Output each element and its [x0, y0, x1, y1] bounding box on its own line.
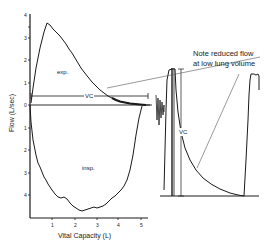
exp-label: exp. [57, 68, 68, 76]
trace-noise [156, 95, 164, 125]
left-axes [28, 14, 152, 220]
annotation-line-1: Note reduced flow [193, 49, 253, 58]
y-tick-neg4: 4 [24, 192, 27, 198]
y-tick-neg2: 2 [24, 147, 27, 153]
x-tick-1: 1 [51, 222, 54, 228]
y-tick-4: 4 [24, 12, 27, 18]
y-axis-label: Flow (L/sec) [8, 94, 15, 132]
flow-volume-diagram [0, 0, 277, 245]
x-tick-3: 3 [96, 222, 99, 228]
right-panel [160, 68, 259, 196]
y-tick-1: 1 [24, 80, 27, 86]
y-tick-0: 0 [24, 102, 27, 108]
x-tick-5: 5 [140, 222, 143, 228]
annotation-pointers [107, 57, 260, 168]
insp-label: insp. [82, 164, 95, 172]
inspiratory-curve [30, 105, 142, 211]
y-tick-2: 2 [24, 57, 27, 63]
y-tick-neg1: 1 [24, 125, 27, 131]
y-tick-neg3: 3 [24, 170, 27, 176]
annotation-line-2: at low lung volume [193, 59, 255, 68]
x-axis-label: Vital Capacity (L) [58, 232, 111, 240]
y-tick-3: 3 [24, 35, 27, 41]
vc-label-left: VC [84, 92, 94, 100]
x-tick-2: 2 [74, 222, 77, 228]
x-tick-4: 4 [117, 222, 120, 228]
vc-label-right: VC [179, 128, 187, 136]
expiratory-tail-noise [112, 98, 146, 105]
